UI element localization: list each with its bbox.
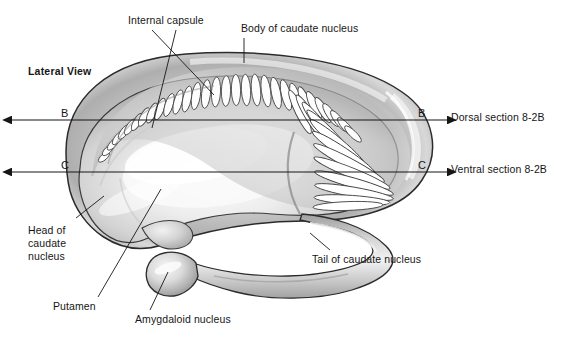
ventral-section-caption: Ventral section 8-2B [451,163,547,176]
tail-of-caudate-nucleus-label: Tail of caudate nucleus [312,253,421,266]
head-line-2: caudate [28,237,66,249]
lateral-view-label: Lateral View [28,65,92,78]
head-of-caudate-nucleus-label: Head ofcaudatenucleus [28,224,66,263]
amygdaloid-nucleus-label: Amygdaloid nucleus [135,313,231,326]
amygdaloid-nucleus-shape [146,252,198,296]
section-mark-c-left: C [61,159,69,172]
section-mark-c-right: C [418,159,426,172]
putamen-label: Putamen [53,300,96,313]
dorsal-section-caption: Dorsal section 8-2B [451,111,545,124]
head-line-3: nucleus [28,250,65,262]
internal-capsule-label: Internal capsule [128,14,204,27]
leader-tail-of-caudate [310,233,330,250]
body-of-caudate-nucleus-label: Body of caudate nucleus [241,22,358,35]
head-line-1: Head of [28,224,65,236]
section-mark-b-left: B [61,107,68,120]
section-mark-b-right: B [418,107,425,120]
